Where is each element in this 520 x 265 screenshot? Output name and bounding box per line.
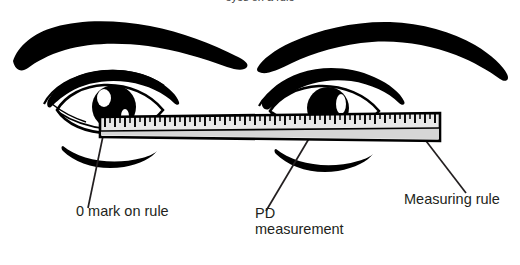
diagram-title-clipped: eyes on a rule — [0, 0, 520, 3]
label-pd-line2: measurement — [255, 221, 344, 237]
label-zero-mark: 0 mark on rule — [76, 203, 169, 219]
right-iris-highlight — [336, 94, 346, 114]
label-pd-measurement: PDmeasurement — [255, 205, 344, 237]
label-measuring-rule: Measuring rule — [404, 191, 500, 207]
measuring-ruler — [100, 113, 440, 141]
diagram-canvas: eyes on a rule 0 mark on rule PDmeasurem… — [0, 0, 520, 265]
left-iris-highlight — [97, 89, 111, 107]
label-pd-line1: PD — [255, 205, 275, 221]
